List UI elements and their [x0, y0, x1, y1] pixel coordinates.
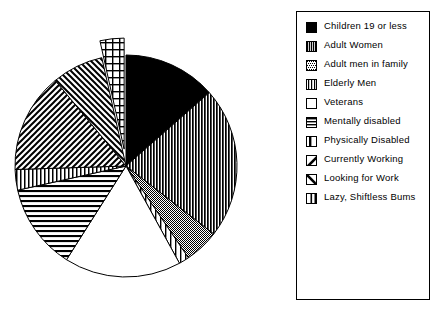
legend-item[interactable]: Physically Disabled: [297, 135, 429, 147]
legend-item[interactable]: Elderly Men: [297, 78, 429, 90]
legend-item[interactable]: Currently Working: [297, 154, 429, 166]
legend-item[interactable]: Adult men in family: [297, 59, 429, 71]
legend-item[interactable]: Mentally disabled: [297, 116, 429, 128]
pie-chart-figure: Children 19 or lessAdult WomenAdult men …: [0, 0, 442, 318]
legend-swatch-backslash-diagonal: [306, 155, 317, 166]
legend-item-label: Adult Women: [324, 40, 383, 51]
legend-swatch-fine-dots: [306, 60, 317, 71]
legend-item[interactable]: Lazy, Shiftless Bums: [297, 192, 429, 204]
legend-item-label: Looking for Work: [324, 173, 399, 184]
legend-item-label: Elderly Men: [324, 78, 376, 89]
legend-item-label: Adult men in family: [324, 59, 408, 70]
legend-item-label: Currently Working: [324, 154, 403, 165]
legend-item[interactable]: Children 19 or less: [297, 21, 429, 33]
legend-swatch-sparse-vertical-lines: [306, 79, 317, 90]
legend-swatch-solid-black: [306, 22, 317, 33]
legend-swatch-crosshatch-grid: [306, 193, 317, 204]
legend-swatch-dense-vertical-lines: [306, 41, 317, 52]
legend-item[interactable]: Veterans: [297, 97, 429, 109]
legend-item-label: Lazy, Shiftless Bums: [324, 192, 415, 203]
legend-item-label: Physically Disabled: [324, 135, 410, 146]
legend-swatch-narrow-vertical-lines: [306, 136, 317, 147]
legend-swatch-horizontal-lines: [306, 117, 317, 128]
legend-item[interactable]: Adult Women: [297, 40, 429, 52]
legend-swatch-white-empty: [306, 98, 317, 109]
pie-slices-group: [15, 38, 237, 277]
legend-item[interactable]: Looking for Work: [297, 173, 429, 185]
legend-list: Children 19 or lessAdult WomenAdult men …: [297, 21, 429, 204]
legend-item-label: Children 19 or less: [324, 21, 407, 32]
chart-legend: Children 19 or lessAdult WomenAdult men …: [296, 11, 430, 300]
legend-item-label: Mentally disabled: [324, 116, 401, 127]
legend-swatch-forward-slash-diagonal: [306, 174, 317, 185]
legend-item-label: Veterans: [324, 97, 363, 108]
